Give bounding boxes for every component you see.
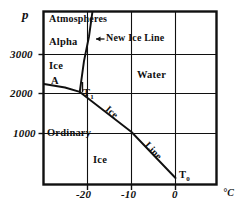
region-label-ordinary: Ordinary [47,128,91,139]
region-label-alpha: Alpha [49,37,77,48]
curve-a-to-t1 [44,84,80,92]
y-tick-2000: 2000 [10,88,33,99]
region-label-water: Water [137,70,166,81]
annotation-new-ice-line: New Ice Line [106,33,165,43]
arrow-head-new-ice-line [96,36,101,41]
x-tick-zero: 0 [172,189,178,200]
y-axis-title: p [22,8,29,21]
phase-diagram-figure: p °C 3000 2000 1000 -20 -10 0 Atmosphere… [0,0,247,216]
point-label-t0-subscript: 0 [186,175,190,183]
region-label-ice-lower: Ice [93,155,107,166]
x-tick-minus20: -20 [76,189,91,200]
x-axis-title: °C [223,188,234,198]
y-axis-unit-label: Atmospheres [49,14,107,24]
point-label-t1: T1 [83,88,94,101]
x-tick-minus10: -10 [121,189,136,200]
point-label-t0: T0 [179,170,190,183]
y-tick-1000: 1000 [13,128,36,139]
region-label-ice-upper: Ice [49,61,63,72]
point-label-t1-subscript: 1 [90,93,94,101]
y-tick-3000: 3000 [10,49,33,60]
point-label-a: A [51,76,59,87]
